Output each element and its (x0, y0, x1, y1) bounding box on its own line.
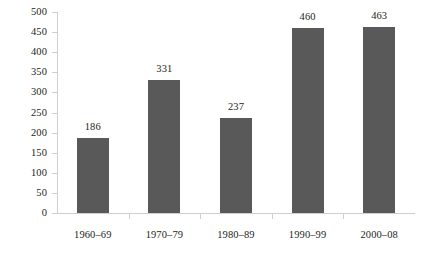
x-axis-tick (200, 214, 201, 219)
y-axis-tick (52, 72, 57, 73)
y-axis-tick-label: 100 (7, 168, 47, 179)
bar-value-label: 463 (349, 11, 409, 22)
y-axis-tick (52, 12, 57, 13)
bar-chart: 050100150200250300350400450500 186331237… (0, 0, 426, 255)
y-axis-tick-label: 350 (7, 67, 47, 78)
bar (363, 27, 395, 213)
y-axis-tick-label: 0 (7, 208, 47, 219)
x-axis-category-label: 2000–08 (343, 229, 415, 240)
y-axis-tick-label: 450 (7, 27, 47, 38)
bar (220, 118, 252, 213)
x-axis-tick (129, 214, 130, 219)
y-axis-tick-label: 300 (7, 87, 47, 98)
y-axis-tick (52, 92, 57, 93)
y-axis-tick (52, 133, 57, 134)
y-axis-tick (52, 113, 57, 114)
y-axis-tick (52, 32, 57, 33)
bar (77, 138, 109, 213)
y-axis-tick (52, 173, 57, 174)
x-axis-tick (343, 214, 344, 219)
y-axis-tick-label: 400 (7, 47, 47, 58)
y-axis-tick-label: 200 (7, 128, 47, 139)
bar-value-label: 460 (278, 12, 338, 23)
y-axis-tick (52, 193, 57, 194)
y-axis-tick (52, 213, 57, 214)
y-axis-tick-label: 500 (7, 7, 47, 18)
x-axis-category-label: 1980–89 (200, 229, 272, 240)
x-axis-category-label: 1970–79 (129, 229, 201, 240)
x-axis-category-label: 1960–69 (57, 229, 129, 240)
y-axis-tick (52, 153, 57, 154)
bar (292, 28, 324, 213)
bar-value-label: 331 (134, 64, 194, 75)
x-axis-category-label: 1990–99 (272, 229, 344, 240)
x-axis-tick (272, 214, 273, 219)
bar-value-label: 237 (206, 102, 266, 113)
y-axis-tick-label: 50 (7, 188, 47, 199)
y-axis-tick-label: 250 (7, 108, 47, 119)
y-axis-tick (52, 52, 57, 53)
bar-value-label: 186 (63, 122, 123, 133)
x-axis-line (57, 213, 415, 214)
y-axis-line (57, 12, 58, 214)
bar (148, 80, 180, 213)
y-axis-tick-label: 150 (7, 148, 47, 159)
